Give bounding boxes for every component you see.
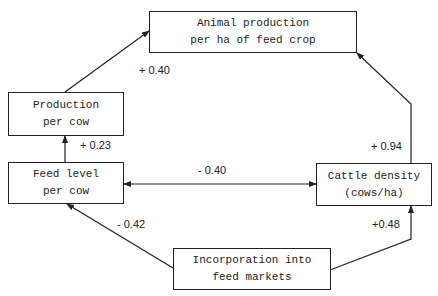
edge-label: + 0.23: [80, 139, 111, 151]
edge-label: - 0.40: [198, 164, 226, 176]
node-text: per cow: [43, 183, 89, 200]
arrow-production-to-animal: [65, 31, 149, 92]
node-text: Production: [33, 97, 99, 114]
node-cattle-density: Cattle density (cows/ha): [316, 163, 432, 206]
node-text: per cow: [43, 114, 89, 131]
node-text: per ha of feed crop: [190, 32, 315, 49]
node-text: Animal production: [197, 15, 309, 32]
node-incorporation: Incorporation into feed markets: [173, 248, 331, 290]
arrow-incorporation-to-cattle: [330, 206, 411, 270]
node-animal-production: Animal production per ha of feed crop: [149, 11, 357, 53]
node-text: Incorporation into: [193, 252, 312, 269]
edge-label: + 0.40: [139, 64, 170, 76]
edge-label: +0.48: [372, 218, 400, 230]
edge-label: - 0.42: [117, 218, 145, 230]
node-production-per-cow: Production per cow: [8, 92, 124, 136]
node-text: feed markets: [212, 269, 291, 286]
node-text: Cattle density: [328, 168, 420, 185]
path-diagram: Animal production per ha of feed crop Pr…: [0, 0, 438, 296]
node-feed-level: Feed level per cow: [8, 162, 124, 204]
node-text: Feed level: [33, 166, 99, 183]
arrow-incorporation-to-feed: [67, 204, 173, 268]
node-text: (cows/ha): [344, 185, 403, 202]
edge-label: + 0.94: [371, 140, 402, 152]
